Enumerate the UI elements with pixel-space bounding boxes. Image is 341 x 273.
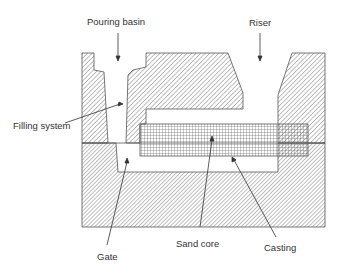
mould-diagram [0, 0, 341, 273]
label-riser: Riser [249, 17, 271, 28]
label-pouring-basin: Pouring basin [87, 16, 145, 27]
label-filling-system: Filling system [13, 120, 71, 131]
label-sand-core: Sand core [176, 238, 219, 249]
sand-core [140, 124, 308, 156]
cope-left-block [82, 53, 108, 143]
label-casting: Casting [264, 242, 296, 253]
label-gate: Gate [97, 251, 118, 262]
